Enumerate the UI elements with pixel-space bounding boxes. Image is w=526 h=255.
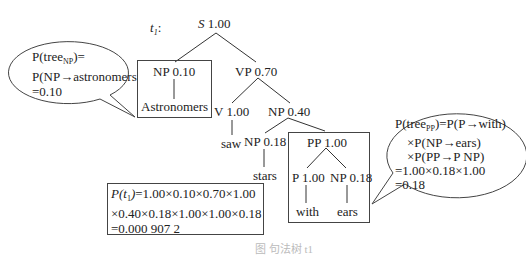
- tree-label: t1:: [150, 20, 161, 40]
- probability-formula: P(t1)=1.00×0.10×0.70×1.00 ×0.40×0.18×1.0…: [111, 186, 261, 236]
- word-saw: saw: [221, 136, 241, 151]
- node-np-object: NP 0.40: [268, 104, 310, 119]
- node-vp: VP 0.70: [235, 64, 277, 79]
- bubble-np-text: P(treeNP)= P(NP→astronomers =0.10: [32, 49, 137, 99]
- node-pp: PP 1.00: [307, 135, 347, 150]
- node-np-ears: NP 0.18: [330, 170, 372, 185]
- word-stars: stars: [253, 168, 277, 183]
- node-np-stars: NP 0.18: [244, 134, 286, 149]
- bubble-pp-text: P(treePP)=P(P→with) ×P(NP→ears) ×P(PP→P …: [395, 117, 506, 192]
- node-v: V 1.00: [214, 104, 249, 119]
- node-p: P 1.00: [292, 170, 325, 185]
- word-astronomers: Astronomers: [141, 99, 208, 114]
- word-with: with: [296, 204, 319, 219]
- word-ears: ears: [337, 204, 358, 219]
- figure-caption: 图 句法树 t1: [255, 240, 313, 255]
- node-s: S 1.00: [198, 16, 231, 31]
- node-np-subject: NP 0.10: [153, 64, 195, 79]
